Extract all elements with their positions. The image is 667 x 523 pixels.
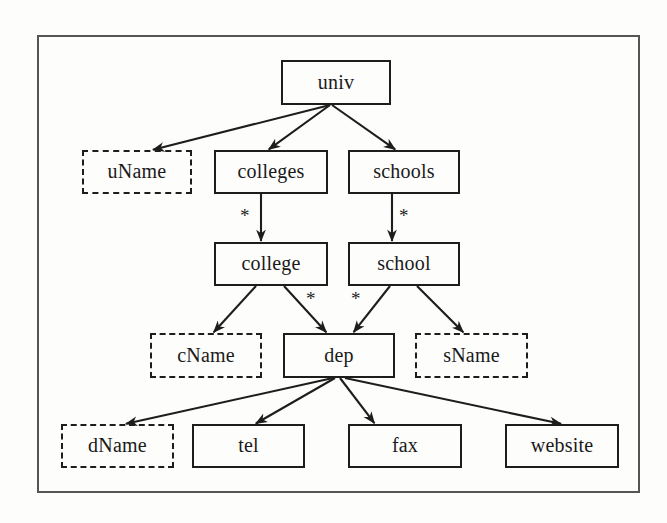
node-school[interactable]: school	[348, 242, 460, 286]
node-label: college	[241, 253, 300, 273]
node-colleges[interactable]: colleges	[214, 150, 328, 194]
node-uName[interactable]: uName	[82, 150, 192, 194]
node-label: dName	[88, 435, 147, 455]
node-label: fax	[392, 435, 418, 455]
node-tel[interactable]: tel	[192, 424, 305, 468]
node-website[interactable]: website	[505, 424, 619, 468]
node-schools[interactable]: schools	[348, 150, 460, 194]
node-label: website	[531, 435, 594, 455]
node-label: uName	[108, 161, 167, 181]
node-univ[interactable]: univ	[281, 60, 391, 105]
multiplicity-marker: *	[240, 206, 250, 225]
node-label: cName	[177, 345, 235, 365]
multiplicity-marker: *	[306, 289, 316, 308]
node-label: univ	[318, 72, 354, 92]
node-cName[interactable]: cName	[150, 333, 262, 378]
node-label: tel	[238, 435, 259, 455]
node-dName[interactable]: dName	[61, 424, 174, 468]
node-sName[interactable]: sName	[415, 333, 528, 378]
node-label: schools	[373, 161, 434, 181]
node-dep[interactable]: dep	[283, 333, 395, 378]
node-label: sName	[443, 345, 500, 365]
node-label: school	[377, 253, 430, 273]
diagram-canvas: univuNamecollegesschoolscollegeschoolcNa…	[0, 0, 667, 523]
multiplicity-marker: *	[351, 289, 361, 308]
node-fax[interactable]: fax	[348, 424, 462, 468]
node-label: dep	[324, 345, 353, 365]
node-college[interactable]: college	[214, 242, 328, 286]
node-label: colleges	[237, 161, 304, 181]
multiplicity-marker: *	[399, 206, 409, 225]
